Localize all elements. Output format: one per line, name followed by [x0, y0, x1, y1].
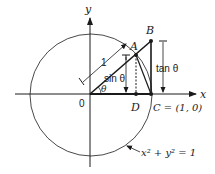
- point-D: [134, 92, 138, 96]
- point-A: [134, 53, 138, 57]
- point-B-label: B: [145, 24, 154, 37]
- circle-equation-label: x² + y² = 1: [141, 147, 196, 158]
- radius-label: 1: [101, 57, 107, 68]
- point-C-label: C = (1, 0): [153, 102, 202, 113]
- equation-leader: [127, 146, 140, 152]
- point-B: [149, 39, 153, 43]
- point-C: [149, 92, 153, 96]
- sin-label: sin θ: [104, 73, 126, 84]
- tan-label: tan θ: [156, 63, 179, 74]
- x-axis-label: x: [200, 88, 207, 101]
- origin-label: 0: [79, 98, 85, 109]
- angle-label: θ: [101, 84, 107, 94]
- point-D-label: D: [130, 101, 140, 114]
- unit-circle-diagram: y x 0 A B D C = (1, 0) 1 θ sin θ tan θ x…: [0, 0, 215, 174]
- y-axis-label: y: [84, 3, 92, 16]
- point-A-label: A: [129, 40, 138, 53]
